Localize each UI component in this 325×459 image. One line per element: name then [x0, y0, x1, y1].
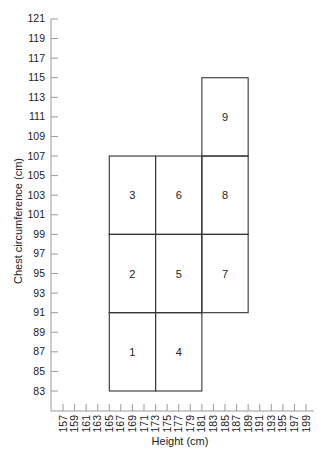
y-tick-label: 111: [29, 110, 45, 122]
cell-label: 1: [129, 346, 135, 358]
cell-label: 5: [176, 268, 182, 280]
y-tick-label: 103: [27, 189, 45, 201]
y-tick-label: 117: [28, 52, 45, 64]
size-cell-3: 3: [109, 156, 155, 234]
x-tick-label: 169: [126, 415, 138, 433]
x-tick-label: 171: [138, 415, 150, 433]
x-tick-label: 197: [288, 415, 300, 433]
x-tick-label: 199: [300, 415, 312, 433]
cell-label: 9: [222, 111, 228, 123]
x-tick-label: 187: [230, 415, 242, 433]
cell-label: 3: [129, 189, 135, 201]
x-tick-label: 165: [103, 415, 115, 433]
x-axis: 1571591611631651671691711731751771791811…: [51, 404, 314, 433]
y-tick-label: 95: [33, 267, 45, 279]
y-tick-label: 93: [33, 287, 45, 299]
y-tick-label: 99: [33, 228, 45, 240]
x-tick-label: 183: [207, 415, 219, 433]
y-tick-label: 101: [27, 208, 45, 220]
x-tick-label: 191: [253, 415, 265, 433]
x-tick-label: 157: [57, 415, 69, 433]
x-tick-label: 159: [68, 415, 80, 433]
size-grid-chart: 8385878991939597991011031051071091111131…: [0, 0, 325, 459]
y-tick-label: 121: [27, 12, 45, 24]
cell-label: 7: [222, 268, 228, 280]
size-cell-4: 4: [156, 313, 202, 391]
y-tick-label: 89: [33, 326, 45, 338]
x-tick-label: 177: [172, 415, 184, 433]
size-cell-7: 7: [202, 234, 248, 312]
chart-canvas: 8385878991939597991011031051071091111131…: [0, 0, 325, 459]
size-cell-1: 1: [109, 313, 155, 391]
size-cell-5: 5: [156, 234, 202, 312]
cell-label: 8: [222, 189, 228, 201]
x-tick-label: 167: [114, 415, 126, 433]
x-tick-label: 161: [80, 415, 92, 433]
size-cell-8: 8: [202, 156, 248, 234]
y-tick-label: 107: [27, 150, 45, 162]
x-tick-label: 173: [149, 415, 161, 433]
y-tick-label: 113: [28, 91, 45, 103]
size-cells: 123456789: [109, 78, 248, 391]
y-tick-label: 119: [28, 32, 45, 44]
y-tick-label: 115: [28, 71, 45, 83]
y-tick-label: 109: [27, 130, 45, 142]
y-tick-label: 83: [33, 385, 45, 397]
cell-label: 2: [129, 268, 135, 280]
x-tick-label: 181: [195, 415, 207, 433]
x-tick-label: 185: [219, 415, 231, 433]
x-tick-label: 175: [161, 415, 173, 433]
x-tick-label: 179: [184, 415, 196, 433]
x-tick-label: 193: [265, 415, 277, 433]
x-tick-label: 189: [242, 415, 254, 433]
size-cell-2: 2: [109, 234, 155, 312]
y-axis-title: Chest circumference (cm): [12, 158, 24, 284]
y-tick-label: 105: [27, 169, 45, 181]
y-tick-label: 91: [33, 306, 45, 318]
y-axis: 8385878991939597991011031051071091111131…: [27, 12, 58, 411]
cell-label: 6: [176, 189, 182, 201]
cell-label: 4: [176, 346, 182, 358]
x-tick-label: 195: [276, 415, 288, 433]
x-tick-label: 163: [91, 415, 103, 433]
y-tick-label: 97: [33, 247, 45, 259]
size-cell-9: 9: [202, 78, 248, 156]
y-tick-label: 87: [33, 345, 45, 357]
x-axis-title: Height (cm): [152, 435, 209, 447]
size-cell-6: 6: [156, 156, 202, 234]
y-tick-label: 85: [33, 365, 45, 377]
